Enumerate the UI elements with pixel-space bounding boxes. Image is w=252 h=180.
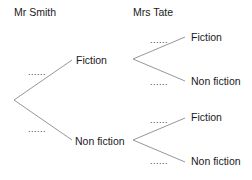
probability-blank-tate-fiction-given-fiction[interactable]: ...... <box>150 35 168 45</box>
probability-blank-tate-nonfiction-given-nonfiction[interactable]: ...... <box>150 156 168 166</box>
header-mr-smith: Mr Smith <box>14 6 56 18</box>
label-tate-nonfiction-given-nonfiction: Non fiction <box>191 155 241 167</box>
tree-branches <box>0 0 252 180</box>
probability-blank-smith-nonfiction[interactable]: ...... <box>28 124 46 134</box>
label-tate-nonfiction-given-fiction: Non fiction <box>191 75 241 87</box>
header-mrs-tate: Mrs Tate <box>133 6 173 18</box>
probability-blank-tate-fiction-given-nonfiction[interactable]: ...... <box>150 115 168 125</box>
probability-blank-smith-fiction[interactable]: ...... <box>28 67 46 77</box>
probability-blank-tate-nonfiction-given-fiction[interactable]: ...... <box>150 77 168 87</box>
label-smith-nonfiction: Non fiction <box>75 135 125 147</box>
branch-root-to-fiction <box>14 60 72 100</box>
label-tate-fiction-given-nonfiction: Fiction <box>191 111 222 123</box>
label-tate-fiction-given-fiction: Fiction <box>191 31 222 43</box>
label-smith-fiction: Fiction <box>76 54 107 66</box>
branch-root-to-nonfiction <box>14 100 72 140</box>
